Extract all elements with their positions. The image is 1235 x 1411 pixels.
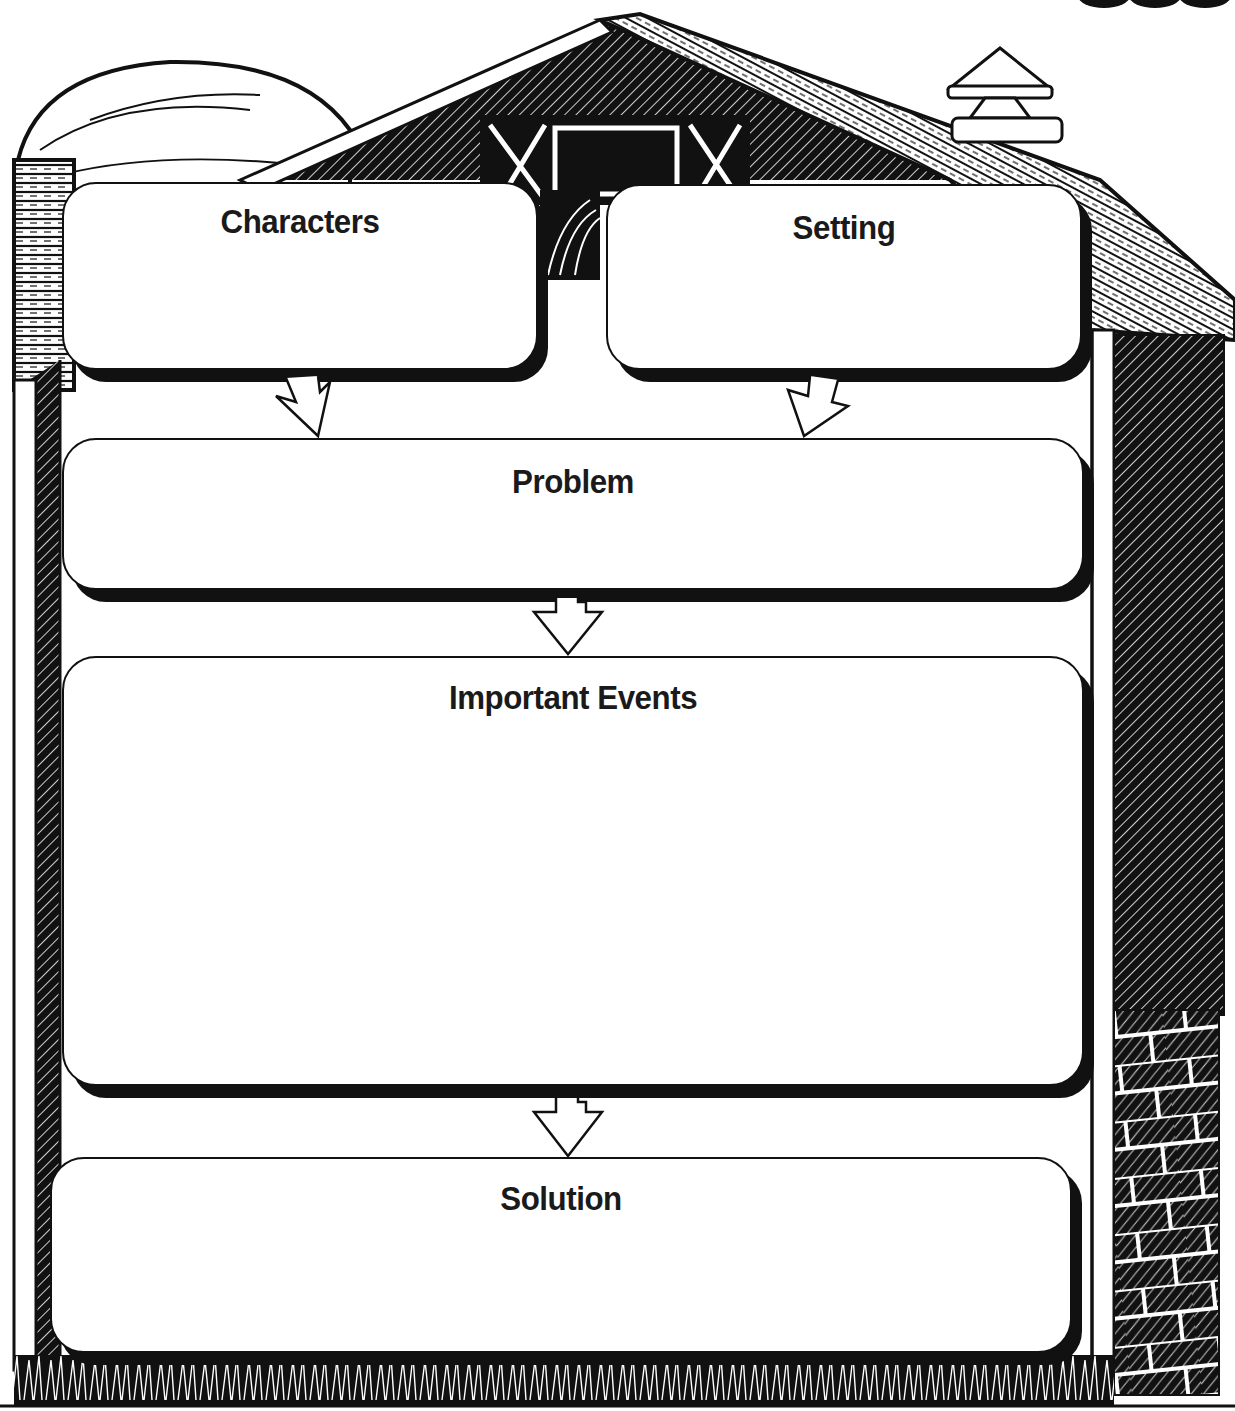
arrow-problem-to-important-events — [530, 598, 606, 658]
arrow-setting-to-problem — [784, 376, 856, 440]
setting-label: Setting — [627, 208, 1061, 247]
solution-box[interactable]: Solution — [50, 1157, 1072, 1353]
setting-box[interactable]: Setting — [606, 184, 1082, 370]
arrow-characters-to-problem — [268, 376, 340, 440]
barn-story-map: Characters Setting Problem Important Eve… — [0, 0, 1235, 1411]
characters-box[interactable]: Characters — [62, 182, 538, 370]
important-events-write-area[interactable] — [82, 730, 1064, 1068]
solution-label: Solution — [93, 1179, 1030, 1218]
arrow-important-events-to-solution — [530, 1098, 606, 1160]
important-events-label: Important Events — [105, 678, 1042, 717]
problem-write-area[interactable] — [82, 514, 1064, 572]
characters-label: Characters — [83, 202, 517, 241]
setting-write-area[interactable] — [626, 256, 1062, 352]
important-events-box[interactable]: Important Events — [62, 656, 1084, 1086]
problem-box[interactable]: Problem — [62, 438, 1084, 590]
characters-write-area[interactable] — [82, 254, 518, 352]
solution-write-area[interactable] — [70, 1231, 1052, 1335]
problem-label: Problem — [105, 462, 1042, 501]
